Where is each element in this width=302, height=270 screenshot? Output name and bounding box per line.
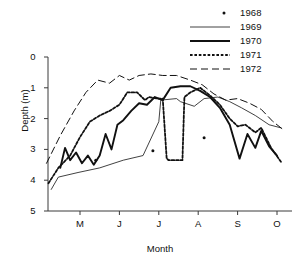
legend-label: 1972	[232, 64, 262, 74]
legend-label: 1969	[232, 22, 262, 32]
y-tick-label: 2	[26, 113, 40, 124]
legend-item: 1971	[186, 48, 298, 62]
x-tick-label: M	[70, 218, 90, 229]
legend-label: 1968	[232, 8, 262, 18]
x-axis-title: Month	[120, 243, 200, 254]
legend-key-dotted	[186, 49, 232, 61]
legend-key-thin-solid	[186, 21, 232, 33]
y-tick-label: 4	[26, 174, 40, 185]
x-tick-label: O	[267, 218, 287, 229]
chart-legend: 1968 1969 1970 1971 1972	[186, 6, 298, 76]
legend-key-scatter	[186, 7, 232, 19]
scatter-point	[151, 149, 154, 152]
x-tick-label: J	[109, 218, 129, 229]
legend-item: 1970	[186, 34, 298, 48]
x-tick-label: A	[188, 218, 208, 229]
x-tick-label: S	[228, 218, 248, 229]
legend-item: 1969	[186, 20, 298, 34]
y-tick-label: 3	[26, 143, 40, 154]
y-tick-label: 0	[26, 51, 40, 62]
legend-label: 1971	[232, 50, 262, 60]
legend-label: 1970	[232, 36, 262, 46]
legend-item: 1968	[186, 6, 298, 20]
series-line-1970	[60, 86, 277, 168]
y-tick-label: 5	[26, 205, 40, 216]
y-tick-label: 1	[26, 82, 40, 93]
legend-key-thick-solid	[186, 35, 232, 47]
scatter-point	[203, 136, 206, 139]
legend-item: 1972	[186, 62, 298, 76]
chart-figure: Depth (m) Month 1968 1969 1970 1971 1972…	[0, 0, 302, 270]
x-tick-label: J	[149, 218, 169, 229]
legend-key-dashed	[186, 63, 232, 75]
